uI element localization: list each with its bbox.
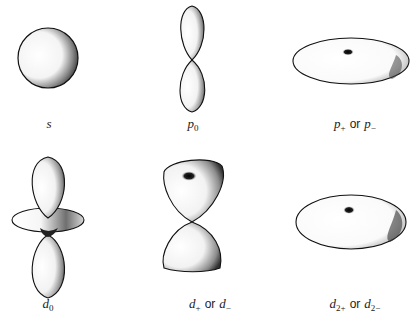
label-d2-plus-sub: 2+ bbox=[336, 303, 346, 313]
label-s: s bbox=[46, 116, 51, 132]
label-p-plus-sub: + bbox=[341, 123, 346, 133]
p0-orbital-dumbbell bbox=[180, 6, 205, 112]
label-or-connector: or bbox=[350, 297, 361, 311]
s-orbital-sphere bbox=[18, 28, 78, 88]
label-d2-plus-minus: d2+ord2− bbox=[330, 296, 381, 313]
label-s-main: s bbox=[46, 116, 51, 131]
label-p0: p0 bbox=[188, 116, 199, 133]
label-p0-sub: 0 bbox=[194, 123, 199, 133]
label-d-minus-sub: − bbox=[226, 303, 231, 313]
label-or-connector: or bbox=[205, 297, 216, 311]
label-p-minus-sub: − bbox=[371, 123, 376, 133]
label-d2-minus-sub: 2− bbox=[371, 303, 381, 313]
label-d-plus-sub: + bbox=[196, 303, 201, 313]
label-d0-sub: 0 bbox=[49, 303, 54, 313]
d0-orbital bbox=[12, 157, 84, 298]
label-or-connector: or bbox=[350, 117, 361, 131]
label-d-plus-minus: d+ord− bbox=[189, 296, 231, 313]
d-plus-minus-orbital bbox=[163, 160, 223, 272]
label-p-plus-minus: p+orp− bbox=[334, 116, 376, 133]
orbital-figure bbox=[0, 0, 412, 316]
d2-plus-minus-orbital-torus bbox=[296, 195, 406, 249]
label-d0: d0 bbox=[43, 296, 54, 313]
p-plus-minus-orbital-torus bbox=[293, 38, 409, 84]
